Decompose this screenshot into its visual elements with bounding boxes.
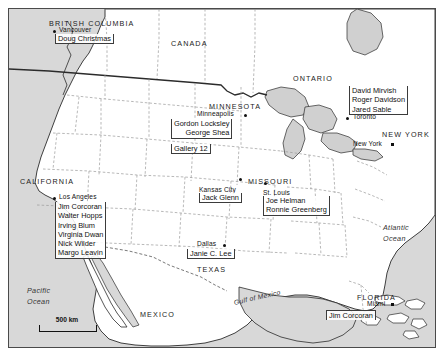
- ocean-label-line: Atlantic: [383, 223, 409, 234]
- dealer-name: Roger Davidson: [352, 95, 405, 104]
- ocean-label-pacific: Pacific Ocean: [27, 286, 50, 308]
- ocean-label-line: Ocean: [27, 297, 50, 308]
- region-label: MEXICO: [140, 310, 175, 319]
- region-label: ONTARIO: [293, 74, 333, 83]
- dealer-name: Joe Helman: [266, 196, 327, 205]
- dealer-group-kansas-city: Jack Glenn: [199, 193, 242, 203]
- dealer-name: Jim Corcoran: [329, 311, 373, 320]
- gallery-name: Gallery 12: [174, 144, 208, 153]
- dealer-group-los-angeles: Jim Corcoran Walter Hopps Irving Blum Vi…: [55, 202, 106, 259]
- region-label: NEW YORK: [382, 130, 430, 139]
- city-label-new-york: New York: [353, 140, 382, 147]
- dealer-name: Jim Corcoran: [58, 202, 103, 211]
- dealer-group-minneapolis: Gordon Locksley George Shea: [171, 119, 232, 139]
- dealer-name: Margo Leavin: [58, 248, 103, 257]
- city-label-vancouver: Vancouver: [59, 26, 91, 33]
- city-marker-new-york: [391, 143, 394, 146]
- scale-bar-label: 500 km: [39, 316, 95, 323]
- dealer-group-miami: Jim Corcoran: [326, 310, 376, 320]
- city-label-los-angeles: Los Angeles: [59, 193, 97, 200]
- dealer-name: Nick Wilder: [58, 239, 103, 248]
- dealer-name: David Mirvish: [352, 86, 405, 95]
- scale-bar: 500 km: [39, 325, 97, 332]
- map-frame: BRITISH COLUMBIA CANADA ONTARIO MINNESOT…: [8, 8, 436, 348]
- dealer-name: Ronnie Greenberg: [266, 205, 327, 214]
- city-label-miami: Miami: [367, 300, 385, 307]
- dealer-group-toronto: David Mirvish Roger Davidson Jared Sable: [349, 86, 408, 115]
- city-label-kansas-city: Kansas City: [199, 186, 236, 193]
- dealer-name: Janie C. Lee: [190, 249, 232, 258]
- ocean-label-line: Ocean: [383, 234, 409, 245]
- map-figure: BRITISH COLUMBIA CANADA ONTARIO MINNESOT…: [0, 0, 444, 355]
- dealer-group-vancouver: Doug Christmas: [55, 34, 114, 44]
- dealer-name: Irving Blum: [58, 221, 103, 230]
- city-marker-miami: [391, 303, 394, 306]
- dealer-name: Gordon Locksley: [174, 119, 229, 128]
- dealer-name: Virginia Dwan: [58, 230, 103, 239]
- scale-bar-line: [39, 325, 97, 332]
- region-label: MISSOURI: [248, 177, 292, 186]
- dealer-group-st-louis: Joe Helman Ronnie Greenberg: [263, 196, 330, 216]
- city-label-dallas: Dallas: [197, 240, 216, 247]
- region-label: CALIFORNIA: [20, 177, 74, 186]
- dealer-name: Walter Hopps: [58, 211, 103, 220]
- dealer-group-dallas: Janie C. Lee: [187, 249, 235, 259]
- dealer-name: Jack Glenn: [202, 193, 239, 202]
- region-label: TEXAS: [197, 265, 226, 274]
- gallery-group-minneapolis: Gallery 12: [171, 144, 211, 154]
- city-label-minneapolis: Minneapolis: [197, 110, 234, 117]
- dealer-name: Doug Christmas: [58, 34, 111, 43]
- city-label-st-louis: St. Louis: [263, 189, 290, 196]
- region-label: CANADA: [171, 39, 208, 48]
- ocean-label-atlantic: Atlantic Ocean: [383, 223, 409, 245]
- dealer-name: George Shea: [174, 128, 229, 137]
- dealer-name: Jared Sable: [352, 105, 405, 114]
- ocean-label-line: Pacific: [27, 286, 50, 297]
